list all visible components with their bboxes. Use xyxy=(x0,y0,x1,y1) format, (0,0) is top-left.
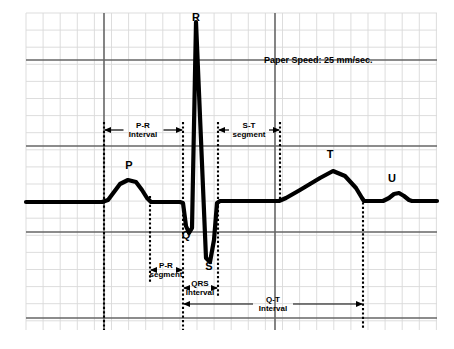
guide-dotted-lines xyxy=(104,122,363,330)
pr-segment-label-line1: P-R xyxy=(159,261,173,270)
pr-interval-label-line2: Interval xyxy=(129,130,157,139)
ecg-figure: P-RIntervalS-TsegmentP-RsegmentQRSInterv… xyxy=(0,0,454,349)
qrs-interval-label-line1: QRS xyxy=(191,279,209,288)
st-segment-label-line2: segment xyxy=(233,130,266,139)
u-wave-label: U xyxy=(388,172,396,184)
p-wave-label: P xyxy=(125,159,132,171)
qrs-interval-label-line2: Interval xyxy=(186,288,214,297)
pr-interval-label-line1: P-R xyxy=(136,121,150,130)
qt-interval-label-line2: Interval xyxy=(259,304,287,313)
q-wave-label: Q xyxy=(182,229,191,241)
r-wave-label: R xyxy=(192,11,200,23)
qt-interval-label-line1: Q-T xyxy=(266,295,280,304)
pr-segment-label-line2: segment xyxy=(150,270,183,279)
st-segment-label-line1: S-T xyxy=(243,121,256,130)
paper-speed-label: Paper Speed: 25 mm/sec. xyxy=(264,55,373,65)
t-wave-label: T xyxy=(327,148,334,160)
wave-letter-labels: PQRSTU xyxy=(125,11,396,272)
ecg-diagram-canvas: P-RIntervalS-TsegmentP-RsegmentQRSInterv… xyxy=(0,0,454,349)
s-wave-label: S xyxy=(205,260,212,272)
